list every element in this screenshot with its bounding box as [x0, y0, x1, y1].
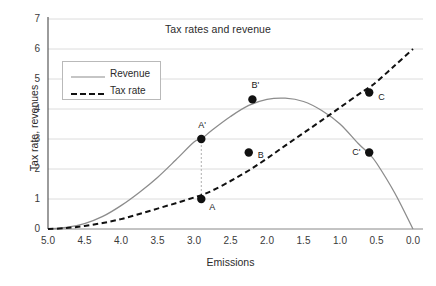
x-tick-label: 1.5	[286, 235, 322, 246]
y-tick-label: 3	[18, 133, 40, 144]
point-label-B: B	[258, 150, 264, 160]
point-label-A: A	[209, 202, 215, 212]
legend-item-tax-rate: Tax rate	[63, 81, 146, 99]
chart-legend: Revenue Tax rate	[62, 61, 161, 100]
y-tick-label: 6	[18, 43, 40, 54]
data-point-B	[245, 148, 253, 156]
x-tick-label: 4.5	[67, 235, 103, 246]
point-label-B-prime: B'	[251, 80, 259, 90]
data-point-C-prime	[365, 148, 373, 156]
y-tick-label: 5	[18, 73, 40, 84]
x-tick-label: 5.0	[30, 235, 66, 246]
x-tick-label: 0.0	[395, 235, 431, 246]
series-line-revenue	[48, 98, 413, 229]
legend-swatch-revenue	[70, 68, 106, 78]
y-tick-label: 7	[18, 13, 40, 24]
x-tick-label: 4.0	[103, 235, 139, 246]
data-point-A	[197, 195, 205, 203]
y-tick-label: 4	[18, 103, 40, 114]
legend-item-revenue: Revenue	[63, 64, 150, 82]
y-tick-label: 1	[18, 193, 40, 204]
x-tick-label: 2.5	[213, 235, 249, 246]
legend-label-revenue: Revenue	[110, 68, 150, 79]
chart-container: Tax rates and revenue Tax rate, revenues…	[0, 0, 436, 286]
point-label-A-prime: A'	[198, 120, 206, 130]
x-tick-label: 1.0	[322, 235, 358, 246]
x-tick-label: 3.0	[176, 235, 212, 246]
gridlines	[48, 19, 423, 229]
point-label-C: C	[378, 92, 385, 102]
y-tick-label: 0	[18, 223, 40, 234]
x-tick-label: 2.0	[249, 235, 285, 246]
data-point-C	[365, 88, 373, 96]
data-point-A-prime	[197, 135, 205, 143]
x-tick-label: 0.5	[359, 235, 395, 246]
point-label-C-prime: C'	[352, 147, 360, 157]
legend-label-tax-rate: Tax rate	[110, 85, 146, 96]
x-tick-label: 3.5	[140, 235, 176, 246]
data-point-B-prime	[248, 95, 256, 103]
legend-swatch-tax-rate	[70, 85, 106, 95]
y-tick-label: 2	[18, 163, 40, 174]
